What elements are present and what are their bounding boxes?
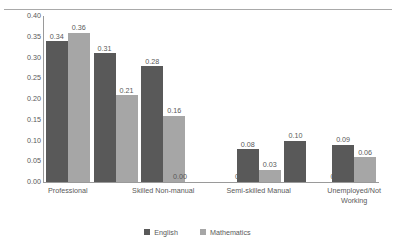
- bar-value-label: 0.21: [120, 87, 134, 94]
- top-frame-rule: [4, 9, 392, 10]
- x-axis-line: [43, 182, 379, 183]
- bar-english: 0.28: [141, 66, 163, 182]
- bar-english: 0.09: [332, 145, 354, 182]
- bar-chart-figure: 0.400.350.300.250.200.150.100.050.00 0.3…: [0, 0, 395, 242]
- bar-group: 0.090.06: [330, 16, 378, 182]
- bar-group: 0.280.16: [139, 16, 187, 182]
- bar-value-label: 0.36: [72, 24, 86, 31]
- bar-value-label: 0.00: [173, 173, 187, 180]
- bar-value-label: 0.09: [336, 136, 350, 143]
- bar-value-label: 0.06: [358, 149, 372, 156]
- x-axis-category-labels: ProfessionalSkilled Non-manualSemi-skill…: [44, 186, 378, 218]
- x-axis-label-line: Professional: [24, 186, 112, 196]
- y-tick-label: 0.05: [1, 158, 41, 165]
- x-axis-label-line: Semi-skilled Manual: [215, 186, 303, 196]
- bar-group-bars: 0.000.00: [187, 16, 235, 182]
- bar-english: 0.10: [284, 141, 306, 183]
- y-tick-label: 0.40: [1, 12, 41, 19]
- bar-group-bars: 0.100.00: [283, 16, 331, 182]
- bar-value-label: 0.16: [167, 107, 181, 114]
- bar-value-label: 0.03: [263, 161, 277, 168]
- bar-value-label: 0.28: [145, 58, 159, 65]
- y-axis-tick-labels: 0.400.350.300.250.200.150.100.050.00: [0, 16, 41, 183]
- bar-group-bars: 0.340.36: [44, 16, 92, 182]
- plot-area: 0.340.360.310.210.280.160.000.000.080.03…: [44, 16, 378, 182]
- bar-group: 0.100.00: [283, 16, 331, 182]
- bar-value-label: 0.31: [98, 45, 112, 52]
- bar-group-bars: 0.280.16: [139, 16, 187, 182]
- y-tick-label: 0.15: [1, 116, 41, 123]
- x-axis-label-line: Skilled Non-manual: [119, 186, 207, 196]
- y-tick-label: 0.20: [1, 95, 41, 102]
- bar-group: 0.310.21: [92, 16, 140, 182]
- y-tick-label: 0.00: [1, 178, 41, 185]
- x-axis-label: Skilled Non-manual: [119, 186, 207, 196]
- bar-group: 0.000.00: [187, 16, 235, 182]
- english-swatch-icon: [144, 229, 150, 235]
- legend-item[interactable]: Mathematics: [200, 229, 251, 236]
- x-axis-label: Unemployed/NotWorking: [310, 186, 395, 205]
- bar-mathematics: 0.06: [354, 157, 376, 182]
- x-axis-label: Semi-skilled Manual: [215, 186, 303, 196]
- legend-label: English: [154, 229, 178, 236]
- bar-group-bars: 0.080.03: [235, 16, 283, 182]
- bar-english: 0.31: [94, 53, 116, 182]
- mathematics-swatch-icon: [200, 229, 206, 235]
- bar-mathematics: 0.36: [68, 33, 90, 182]
- bar-mathematics: 0.03: [259, 170, 281, 182]
- chart-legend: EnglishMathematics: [0, 229, 395, 236]
- bar-value-label: 0.34: [50, 33, 64, 40]
- bar-english: 0.08: [237, 149, 259, 182]
- bar-group: 0.340.36: [44, 16, 92, 182]
- x-axis-label: Professional: [24, 186, 112, 196]
- y-tick-label: 0.30: [1, 54, 41, 61]
- y-tick-label: 0.35: [1, 33, 41, 40]
- bar-value-label: 0.08: [241, 141, 255, 148]
- x-axis-label-line: Unemployed/Not: [310, 186, 395, 196]
- legend-item[interactable]: English: [144, 229, 178, 236]
- bar-mathematics: 0.21: [116, 95, 138, 182]
- bar-group: 0.080.03: [235, 16, 283, 182]
- y-tick-label: 0.10: [1, 137, 41, 144]
- legend-label: Mathematics: [210, 229, 251, 236]
- bar-value-label: 0.10: [288, 132, 302, 139]
- x-axis-label-line: Working: [310, 196, 395, 206]
- bar-group-bars: 0.310.21: [92, 16, 140, 182]
- bar-english: 0.34: [46, 41, 68, 182]
- y-tick-label: 0.25: [1, 75, 41, 82]
- bar-group-bars: 0.090.06: [330, 16, 378, 182]
